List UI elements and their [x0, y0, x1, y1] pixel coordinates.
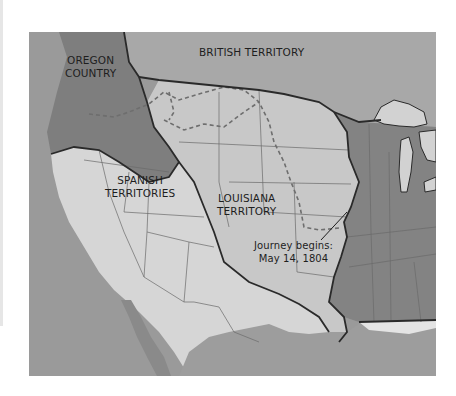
- label-line: BRITISH TERRITORY: [199, 46, 304, 59]
- annotation-line: Journey begins:: [254, 239, 333, 252]
- label-line: OREGON: [65, 54, 116, 67]
- label-line: LOUISIANA: [217, 192, 276, 205]
- page-edge-strip: [0, 0, 3, 326]
- map: OREGON COUNTRY BRITISH TERRITORY SPANISH…: [29, 32, 436, 376]
- label-line: SPANISH: [105, 174, 175, 187]
- label-line: COUNTRY: [65, 67, 116, 80]
- label-british-territory: BRITISH TERRITORY: [199, 46, 304, 59]
- label-oregon-country: OREGON COUNTRY: [65, 54, 116, 80]
- label-line: TERRITORY: [217, 205, 276, 218]
- label-spanish-territories: SPANISH TERRITORIES: [105, 174, 175, 200]
- journey-annotation: Journey begins: May 14, 1804: [254, 239, 333, 265]
- annotation-date: May 14, 1804: [254, 252, 333, 265]
- label-line: TERRITORIES: [105, 187, 175, 200]
- label-louisiana-territory: LOUISIANA TERRITORY: [217, 192, 276, 218]
